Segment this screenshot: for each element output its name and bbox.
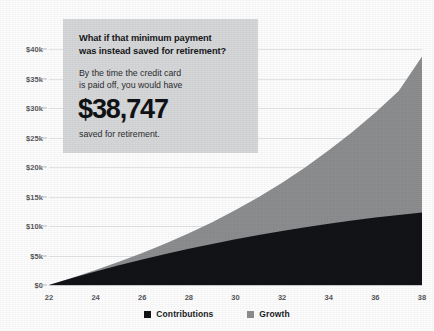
legend-label-contributions: Contributions xyxy=(156,309,213,319)
x-axis-tick-label: 28 xyxy=(185,293,193,302)
x-axis-tick-label: 26 xyxy=(138,293,146,302)
gridline xyxy=(49,285,422,286)
callout-body-line1: By the time the credit card xyxy=(79,68,181,78)
legend-swatch-contributions xyxy=(144,311,151,318)
legend-label-growth: Growth xyxy=(259,309,289,319)
y-axis-tick-label: $35k xyxy=(0,74,43,83)
chart-root: $0$5k$10k$15k$20k$25k$30k$35k$40k 222426… xyxy=(0,0,434,331)
callout-amount: $38,747 xyxy=(78,95,242,123)
x-axis-tick-label: 36 xyxy=(371,293,379,302)
callout-body: By the time the credit card is paid off,… xyxy=(79,67,242,92)
callout-headline: What if that minimum payment was instead… xyxy=(79,32,242,58)
x-axis-tick-label: 32 xyxy=(278,293,286,302)
callout-body-line2: is paid off, you would have xyxy=(79,80,183,90)
y-axis-tick-label: $0 xyxy=(0,281,43,290)
x-axis-tick-label: 24 xyxy=(91,293,99,302)
y-axis-tick-mark xyxy=(40,108,47,109)
x-axis-tick-label: 38 xyxy=(418,293,426,302)
y-axis-tick-label: $20k xyxy=(0,163,43,172)
y-axis-tick-mark xyxy=(40,167,47,168)
y-axis-tick-label: $15k xyxy=(0,192,43,201)
y-axis-tick-mark xyxy=(40,196,47,197)
y-axis-tick-mark xyxy=(40,285,47,286)
callout-headline-line1: What if that minimum payment xyxy=(79,33,212,43)
y-axis-tick-label: $30k xyxy=(0,104,43,113)
y-axis-tick-mark xyxy=(40,49,47,50)
legend-item-growth[interactable]: Growth xyxy=(247,309,289,319)
y-axis-tick-mark xyxy=(40,255,47,256)
y-axis-tick-mark xyxy=(40,226,47,227)
chart-legend: Contributions Growth xyxy=(0,309,434,319)
legend-swatch-growth xyxy=(247,311,254,318)
x-axis-tick-label: 30 xyxy=(231,293,239,302)
y-axis-tick-label: $10k xyxy=(0,222,43,231)
y-axis-tick-label: $5k xyxy=(0,251,43,260)
callout-footer: saved for retirement. xyxy=(79,128,242,140)
x-axis-tick-label: 22 xyxy=(45,293,53,302)
legend-item-contributions[interactable]: Contributions xyxy=(144,309,213,319)
callout-headline-line2: was instead saved for retirement? xyxy=(79,46,226,56)
x-axis-tick-label: 34 xyxy=(325,293,333,302)
y-axis-tick-mark xyxy=(40,137,47,138)
y-axis-tick-label: $25k xyxy=(0,133,43,142)
y-axis-tick-mark xyxy=(40,78,47,79)
y-axis-tick-label: $40k xyxy=(0,45,43,54)
callout-panel: What if that minimum payment was instead… xyxy=(63,19,258,153)
